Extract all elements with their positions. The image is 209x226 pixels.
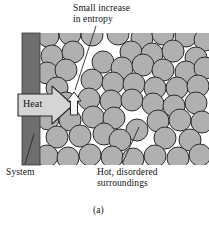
entropy-annotation-label: Small increase in entropy — [73, 3, 130, 25]
particle — [121, 89, 143, 111]
particle — [81, 24, 103, 46]
particle — [162, 40, 184, 62]
particle — [46, 126, 68, 148]
particle — [81, 69, 103, 91]
heat-label: Heat — [23, 98, 42, 109]
system-annotation-label: System — [6, 167, 35, 178]
particle — [57, 147, 79, 169]
particle — [144, 145, 166, 167]
surroundings-annotation-line-2: surroundings — [97, 178, 158, 189]
particle — [169, 109, 191, 131]
particle — [167, 147, 189, 169]
particle — [69, 125, 91, 147]
surroundings-annotation-line-1: Hot, disordered — [97, 167, 158, 178]
particle — [189, 144, 209, 166]
entropy-annotation-line-1: Small increase — [73, 3, 130, 14]
particle — [101, 146, 123, 168]
figure-caption: (a) — [93, 205, 104, 216]
entropy-diagram-figure: Heat Small increase in entropy System Ho… — [0, 0, 209, 226]
surroundings-annotation-label: Hot, disordered surroundings — [97, 167, 158, 189]
particle — [79, 144, 101, 166]
diagram-canvas — [0, 0, 209, 226]
entropy-annotation-line-2: in entropy — [73, 14, 130, 25]
particle — [107, 23, 129, 45]
